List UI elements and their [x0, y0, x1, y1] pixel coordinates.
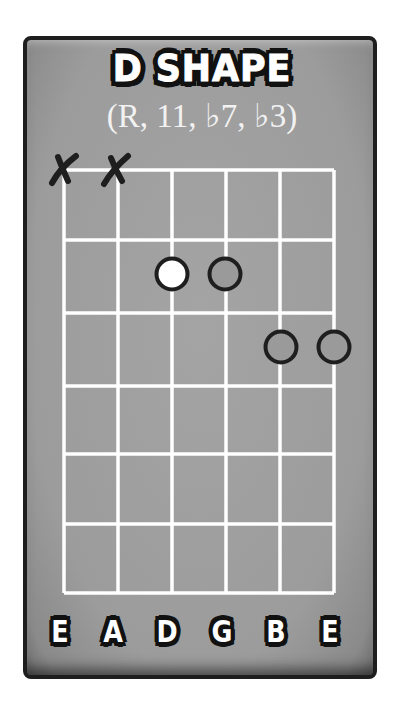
string-label-6: E	[313, 614, 347, 649]
interval-dot-11	[210, 259, 241, 290]
root-dot	[157, 259, 188, 290]
string-label-1: E	[43, 614, 77, 649]
interval-dot-b3	[319, 332, 350, 363]
string-label-3: D	[150, 614, 184, 649]
string-label-5: B	[259, 614, 293, 649]
string-label-2: A	[96, 614, 130, 649]
string-label-4: G	[205, 614, 239, 649]
fretboard-grid	[0, 0, 404, 710]
grid-lines	[64, 170, 334, 593]
interval-dot-b7	[266, 332, 297, 363]
